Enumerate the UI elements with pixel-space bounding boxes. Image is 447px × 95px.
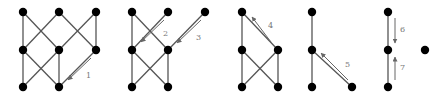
graph-node [384, 46, 392, 54]
graph-edge [242, 12, 278, 50]
graph-node [92, 46, 100, 54]
graph-node [274, 83, 282, 91]
graph-node [421, 46, 429, 54]
arrow-label: 4 [268, 21, 273, 30]
graph-edge [59, 50, 96, 87]
graph-node [55, 83, 63, 91]
graph-node [238, 46, 246, 54]
graph-node [164, 46, 172, 54]
graph-node [384, 83, 392, 91]
hasse-reduction-diagram: 1234567 [0, 0, 447, 95]
graph-node [55, 46, 63, 54]
graph-node [238, 8, 246, 16]
graph-node [384, 8, 392, 16]
arrow-label: 7 [400, 63, 405, 72]
graph-node [19, 8, 27, 16]
arrow-label: 5 [345, 60, 350, 69]
graph-node [308, 83, 316, 91]
graph-edge [168, 12, 205, 50]
graph-node [164, 83, 172, 91]
graph-node [128, 46, 136, 54]
graph-node [164, 8, 172, 16]
graph-node [348, 83, 356, 91]
graph-node [55, 8, 63, 16]
graph-node [308, 8, 316, 16]
graph-node [19, 46, 27, 54]
reduction-arrow-icon [321, 53, 348, 80]
reduction-arrow-icon [141, 20, 164, 42]
graph-node [201, 8, 209, 16]
graph-node [92, 8, 100, 16]
arrow-label: 3 [196, 33, 201, 42]
graph-node [128, 8, 136, 16]
arrow-label: 1 [86, 71, 91, 80]
graph-node [128, 83, 136, 91]
graph-node [274, 46, 282, 54]
graph-node [308, 46, 316, 54]
arrow-label: 6 [400, 25, 405, 34]
graph-node [238, 83, 246, 91]
graph-node [19, 83, 27, 91]
arrow-label: 2 [163, 29, 168, 38]
